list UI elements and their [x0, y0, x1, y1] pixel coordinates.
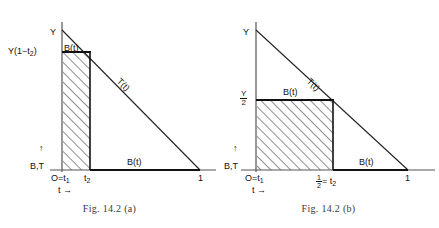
origin-text-a: O=t: [51, 173, 66, 183]
origin-sub-b: 1: [260, 177, 264, 184]
region-label-top-a: B(t): [64, 44, 79, 53]
x-tick-one-b: 1: [405, 174, 410, 183]
x-axis-name-text-b: t: [252, 185, 255, 195]
origin-label-a: O=t1: [51, 174, 70, 184]
y-tick-fraction-b: Y 2: [240, 90, 247, 107]
x-axis-name-a: t →: [58, 186, 72, 195]
x-axis-arrow-a: →: [63, 185, 72, 195]
y-max-label-a: Y: [50, 28, 56, 37]
y-axis-arrow-b: ↑: [233, 144, 238, 153]
y-axis-arrow-a: ↑: [39, 144, 44, 153]
y-tick-label-a: Y(1−t2): [8, 47, 37, 57]
diagram-a-svg: [0, 0, 219, 228]
hatched-region-a: [63, 52, 90, 170]
y-axis-name-b: B,T: [224, 162, 238, 171]
x-axis-arrow-b: →: [257, 185, 266, 195]
figure-panel-b: Y Y 2 B(t) B(t) T(t) ↑ B,T O=t1 1 2 = t2…: [219, 0, 438, 228]
x-tick-t2-sub-a: 2: [87, 177, 91, 184]
x-axis-name-text-a: t: [58, 185, 61, 195]
region-label-bottom-a: B(t): [127, 158, 142, 167]
x-tick-one-a: 1: [198, 174, 203, 183]
caption-b: Fig. 14.2 (b): [219, 203, 438, 214]
x-tick-t2-a: t2: [84, 174, 90, 184]
y-max-label-b: Y: [243, 28, 249, 37]
y-tick-label-b: Y 2: [240, 90, 247, 107]
x-tick-sub-b: 2: [332, 180, 336, 187]
y-tick-num-b: Y: [240, 90, 247, 98]
hatched-region-b: [257, 100, 333, 170]
y-axis-name-a: B,T: [30, 162, 44, 171]
figure-panel-a: Y Y(1−t2) B(t) B(t) T(t) ↑ B,T O=t1 t2 1…: [0, 0, 219, 228]
origin-sub-a: 1: [66, 177, 70, 184]
region-label-top-b: B(t): [283, 88, 298, 97]
y-tick-den-b: 2: [240, 98, 247, 107]
region-label-bottom-b: B(t): [359, 158, 374, 167]
y-tick-text-a: Y(1−t: [8, 46, 30, 56]
x-axis-name-b: t →: [252, 186, 266, 195]
origin-text-b: O=t: [245, 173, 260, 183]
x-tick-t2-b: 1 2 = t2: [316, 174, 336, 189]
x-tick-eq-b: = t: [322, 176, 332, 186]
y-tick-close-a: ): [34, 46, 37, 56]
origin-label-b: O=t1: [245, 174, 264, 184]
caption-a: Fig. 14.2 (a): [0, 203, 219, 214]
